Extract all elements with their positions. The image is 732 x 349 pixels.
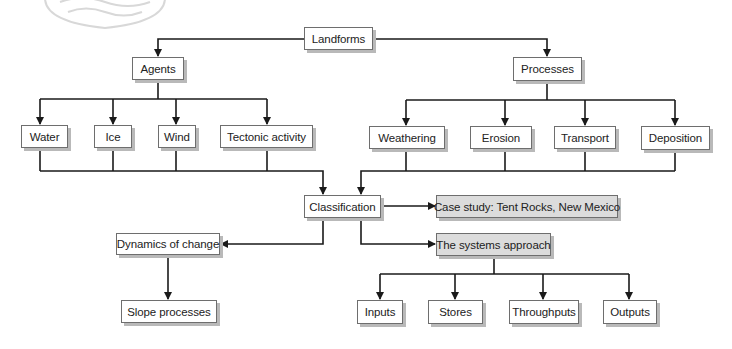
node-label: Case study: Tent Rocks, New Mexico — [434, 201, 620, 213]
node-throughputs: Throughputs — [509, 300, 579, 324]
node-label: Inputs — [365, 306, 396, 318]
node-transport: Transport — [554, 126, 616, 149]
node-label: Ice — [105, 131, 120, 143]
edge-agents-classification — [40, 171, 323, 194]
node-inputs: Inputs — [357, 300, 403, 324]
connector-lines — [0, 0, 732, 349]
node-agents: Agents — [132, 57, 184, 80]
node-tectonic-activity: Tectonic activity — [220, 125, 313, 148]
node-landforms: Landforms — [304, 27, 373, 50]
edge-classification-dynamics — [221, 218, 323, 244]
edge-landforms-agents — [158, 39, 304, 56]
node-erosion: Erosion — [470, 126, 532, 149]
node-processes: Processes — [513, 57, 582, 81]
landforms-diagram: Landforms Agents Processes Water Ice Win… — [0, 0, 732, 349]
node-label: Slope processes — [127, 306, 211, 318]
node-label: Agents — [140, 63, 175, 75]
edge-processes-classification — [361, 171, 675, 194]
node-label: Dynamics of change — [117, 238, 219, 250]
edge-classification-systems — [361, 218, 435, 244]
node-wind: Wind — [158, 125, 196, 148]
node-label: Stores — [439, 306, 472, 318]
node-deposition: Deposition — [641, 126, 710, 150]
node-label: Tectonic activity — [227, 131, 306, 143]
node-classification: Classification — [304, 195, 381, 218]
node-label: Wind — [164, 131, 190, 143]
node-label: Classification — [309, 201, 375, 213]
node-ice: Ice — [94, 125, 132, 148]
node-label: Throughputs — [512, 306, 575, 318]
node-case-study: Case study: Tent Rocks, New Mexico — [436, 195, 618, 218]
node-systems-approach: The systems approach — [436, 233, 551, 256]
node-label: Landforms — [312, 33, 365, 45]
node-label: The systems approach — [436, 239, 550, 251]
node-label: Outputs — [610, 306, 650, 318]
node-stores: Stores — [428, 300, 483, 324]
node-dynamics-of-change: Dynamics of change — [116, 233, 220, 255]
node-label: Deposition — [649, 132, 702, 144]
node-label: Erosion — [482, 132, 520, 144]
edge-landforms-processes — [373, 39, 547, 56]
node-slope-processes: Slope processes — [121, 300, 217, 323]
node-label: Weathering — [378, 132, 436, 144]
node-label: Processes — [521, 63, 574, 75]
node-label: Transport — [561, 132, 609, 144]
node-outputs: Outputs — [603, 300, 657, 324]
node-water: Water — [21, 125, 68, 148]
node-weathering: Weathering — [369, 126, 445, 149]
node-label: Water — [30, 131, 60, 143]
